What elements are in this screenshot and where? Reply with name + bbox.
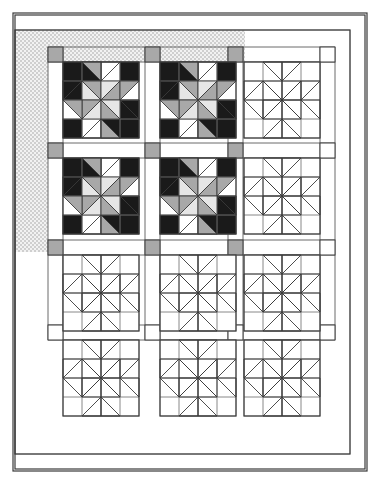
- block-r3c3: [244, 255, 320, 331]
- unit-dark-corner-3: [217, 215, 236, 234]
- unit-dark-corner-1: [120, 62, 139, 81]
- block-r2c2: [160, 158, 236, 234]
- cornerstone-r3c2: [145, 240, 160, 255]
- cornerstone-r3c4: [320, 240, 335, 255]
- unit-dark-corner-0: [160, 62, 179, 81]
- block-r1c2: [160, 62, 236, 138]
- unit-dark-corner-3: [120, 119, 139, 138]
- stipple-band-left: [15, 30, 48, 252]
- cornerstone-r1c4: [320, 47, 335, 62]
- unit-dark-corner-0: [160, 158, 179, 177]
- cornerstone-r3c3: [228, 240, 243, 255]
- block-r4c2: [160, 340, 236, 416]
- unit-dark-corner-2: [63, 215, 82, 234]
- unit-dark-corner-1: [217, 158, 236, 177]
- unit-dark-corner-2: [160, 215, 179, 234]
- cornerstone-r1c1: [48, 47, 63, 62]
- cornerstone-r1c2: [145, 47, 160, 62]
- unit-dark-corner-0: [63, 62, 82, 81]
- unit-dark-corner-2: [63, 119, 82, 138]
- cornerstone-r4c1: [48, 325, 63, 340]
- unit-dark-corner-0: [63, 158, 82, 177]
- quilt-diagram-stage: [0, 0, 380, 484]
- cornerstone-r2c4: [320, 143, 335, 158]
- block-r3c1: [63, 255, 139, 331]
- unit-dark-corner-1: [217, 62, 236, 81]
- block-r4c1: [63, 340, 139, 416]
- block-r1c3: [244, 62, 320, 138]
- unit-dark-corner-3: [217, 119, 236, 138]
- block-r2c1: [63, 158, 139, 234]
- quilt-pattern-diagram: [0, 0, 380, 484]
- cornerstone-r4c4: [320, 325, 335, 340]
- cornerstone-r2c3: [228, 143, 243, 158]
- cornerstone-r2c1: [48, 143, 63, 158]
- block-r4c3: [244, 340, 320, 416]
- cornerstone-r1c3: [228, 47, 243, 62]
- block-r1c1: [63, 62, 139, 138]
- cornerstone-r3c1: [48, 240, 63, 255]
- cornerstone-r2c2: [145, 143, 160, 158]
- unit-dark-corner-2: [160, 119, 179, 138]
- block-r3c2: [160, 255, 236, 331]
- cornerstone-r4c2: [145, 325, 160, 340]
- unit-dark-corner-1: [120, 158, 139, 177]
- block-r2c3: [244, 158, 320, 234]
- unit-dark-corner-3: [120, 215, 139, 234]
